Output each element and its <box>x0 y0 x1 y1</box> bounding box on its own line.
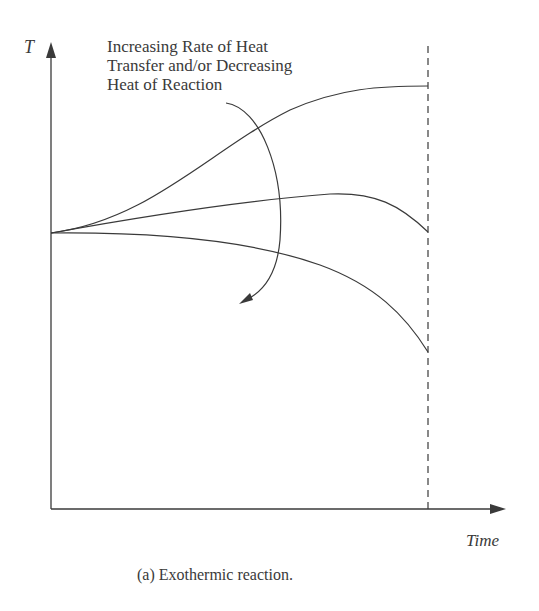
y-axis-arrow-icon <box>46 42 56 58</box>
y-axis-label: T <box>24 37 34 58</box>
curve-bottom <box>51 233 428 352</box>
x-axis-arrow-icon <box>490 504 506 514</box>
trend-annotation: Increasing Rate of Heat Transfer and/or … <box>107 37 292 94</box>
annotation-line-3: Heat of Reaction <box>107 75 292 94</box>
annotation-line-2: Transfer and/or Decreasing <box>107 56 292 75</box>
curved-arrow-head-icon <box>239 293 253 304</box>
x-axis <box>51 504 506 514</box>
x-axis-label: Time <box>466 531 499 551</box>
annotation-line-1: Increasing Rate of Heat <box>107 37 292 56</box>
y-axis <box>46 42 56 509</box>
curve-middle <box>51 194 428 233</box>
figure-caption: (a) Exothermic reaction. <box>137 566 293 584</box>
